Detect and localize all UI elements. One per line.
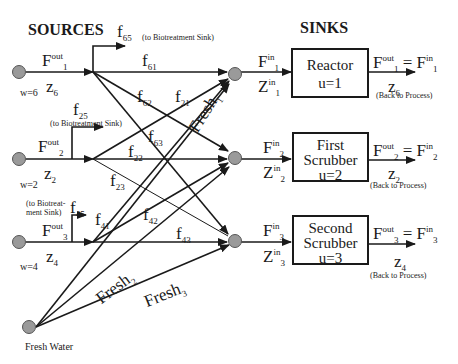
label-f23: f23 [110, 172, 125, 189]
sinks-header: SINKS [300, 20, 348, 36]
sink-node-1 [229, 68, 242, 81]
note-f65: (to Biotreatment Sink) [142, 34, 214, 42]
source-1-w: w=6 [20, 88, 38, 98]
source-3-z: z4 [46, 248, 58, 265]
sink-1-u: u=1 [293, 76, 367, 91]
source-1-flow: Fout1 [42, 52, 67, 69]
sources-header: SOURCES [28, 22, 104, 38]
note-f25: (to Biotreatment Sink) [50, 120, 122, 128]
sink-2-box: First Scrubber u=2 [292, 132, 369, 182]
sink-2-z: z2 [388, 165, 400, 182]
sink-1-box: Reactor u=1 [291, 48, 369, 98]
label-f65: f65 [117, 23, 132, 40]
sink-3-z: z4 [394, 253, 406, 270]
label-f63: f63 [148, 128, 163, 145]
label-f62: f62 [137, 88, 152, 105]
sink-3-zin: Zin3 [263, 248, 285, 265]
source-1-z: z6 [46, 78, 58, 95]
sink-2-name-line1: First [294, 138, 367, 153]
sink-1-name: Reactor [293, 58, 367, 73]
sink-2-zin: Zin2 [263, 164, 285, 181]
source-2-flow: Fout2 [38, 138, 63, 155]
sink-2-name-line2: Scrubber [294, 153, 367, 168]
water-network-diagram: SOURCES SINKS f65 (to Biotreatment Sink)… [0, 0, 458, 364]
sink-3-box: Second Scrubber u=3 [292, 215, 369, 265]
source-3-flow: Fout3 [42, 222, 67, 239]
sink-node-3 [229, 235, 242, 248]
label-f25: f25 [73, 101, 88, 118]
sink-2-in: Fin2 [263, 139, 284, 156]
sink-2-u: u=2 [294, 168, 367, 183]
source-node-1 [13, 66, 26, 79]
source-node-2 [13, 153, 26, 166]
note-f45-line2: ment Sink) [26, 209, 61, 217]
fresh-water-node [23, 321, 36, 334]
sink-1-out: Fout1 = Fin1 [373, 54, 438, 71]
sink-3-name-line1: Second [294, 221, 367, 236]
label-f41: f41 [95, 211, 110, 228]
sink-3-out: Fout3 = Fin3 [373, 225, 438, 242]
sink-3-name-line2: Scrubber [294, 236, 367, 251]
label-f42: f42 [143, 206, 158, 223]
source-2-z: z2 [44, 165, 56, 182]
label-f45: f45 [70, 199, 85, 216]
sink-node-2 [229, 152, 242, 165]
fresh-water-label: Fresh Water [25, 342, 73, 352]
label-f21: f21 [175, 88, 190, 105]
sink-3-u: u=3 [294, 251, 367, 266]
source-node-3 [13, 236, 26, 249]
sink-1-zin: Zin1 [258, 78, 280, 95]
label-f22: f22 [128, 143, 143, 160]
sink-3-in: Fin3 [263, 222, 284, 239]
note-f45-line1: (to Biotreat- [26, 200, 65, 208]
label-f61: f61 [142, 52, 157, 69]
sink-1-back: (Back to Process) [376, 92, 432, 100]
sink-3-back: (Back to Process) [370, 272, 426, 280]
source-3-w: w=4 [20, 262, 38, 272]
sink-1-in: Fin1 [258, 53, 279, 70]
sink-2-out: Fout2 = Fin2 [373, 142, 438, 159]
sink-2-back: (Back to Process) [370, 182, 426, 190]
label-f43: f43 [176, 225, 191, 242]
source-2-w: w=2 [20, 180, 38, 190]
